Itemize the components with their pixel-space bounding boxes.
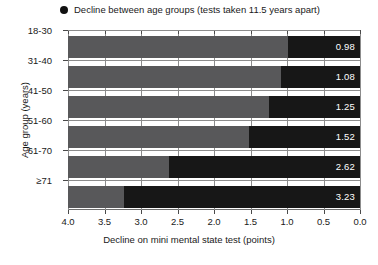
- y-axis-tick-labels: 18-3031-4041-5051-6061-70≥71: [0, 0, 64, 265]
- y-tick-mark: [63, 150, 68, 151]
- x-tick-label: 1.0: [280, 216, 293, 227]
- y-tick-mark: [63, 180, 68, 181]
- bar-value-label: 1.52: [336, 132, 360, 142]
- bar-row: 1.52: [68, 126, 360, 148]
- y-tick-mark: [63, 120, 68, 121]
- x-tick-mark-bottom: [214, 210, 215, 214]
- bar-row: 1.08: [68, 66, 360, 88]
- x-tick-label: 2.0: [207, 216, 220, 227]
- x-tick-mark-bottom: [141, 210, 142, 214]
- plot-area: 0.981.081.251.522.623.23: [68, 30, 360, 210]
- x-tick-mark-bottom: [360, 210, 361, 214]
- x-tick-mark-bottom: [178, 210, 179, 214]
- bar-value-label: 2.62: [336, 162, 360, 172]
- bar-value-label: 0.98: [336, 42, 360, 52]
- x-tick-label: 3.0: [134, 216, 147, 227]
- x-tick-mark-bottom: [287, 210, 288, 214]
- bar-row: 3.23: [68, 186, 360, 208]
- category-gridline: [68, 90, 360, 91]
- bar-value-label: 1.08: [336, 72, 360, 82]
- x-tick-label: 4.0: [61, 216, 74, 227]
- category-gridline: [68, 60, 360, 61]
- y-tick-label: 41-50: [28, 85, 52, 96]
- bar-row: 1.25: [68, 96, 360, 118]
- x-tick-label: 1.5: [244, 216, 257, 227]
- y-tick-mark: [63, 90, 68, 91]
- bar-segment-decline: 0.98: [288, 36, 360, 58]
- y-tick-label: 51-60: [28, 115, 52, 126]
- x-tick-label: 0.0: [353, 216, 366, 227]
- bar-segment-decline: 1.52: [249, 126, 360, 148]
- bar-segment-remainder: [68, 96, 269, 118]
- y-tick-label: 18-30: [28, 25, 52, 36]
- bar-segment-remainder: [68, 186, 124, 208]
- category-gridline: [68, 30, 360, 31]
- bar-segment-remainder: [68, 36, 288, 58]
- category-gridline: [68, 150, 360, 151]
- gridline-x: [360, 30, 361, 210]
- x-tick-mark-top: [360, 30, 361, 34]
- bar-segment-decline: 2.62: [169, 156, 360, 178]
- bar-segment-remainder: [68, 156, 169, 178]
- bar-row: 2.62: [68, 156, 360, 178]
- bar-segment-remainder: [68, 66, 281, 88]
- y-tick-label: ≥71: [36, 175, 52, 186]
- bar-value-label: 1.25: [336, 102, 360, 112]
- x-tick-mark-bottom: [105, 210, 106, 214]
- x-axis-title: Decline on mini mental state test (point…: [0, 234, 378, 245]
- bar-segment-decline: 3.23: [124, 186, 360, 208]
- chart-root: Decline between age groups (tests taken …: [0, 0, 378, 265]
- y-tick-label: 31-40: [28, 55, 52, 66]
- chart-legend: Decline between age groups (tests taken …: [60, 4, 320, 15]
- x-tick-label: 0.5: [317, 216, 330, 227]
- y-tick-mark: [63, 30, 68, 31]
- x-tick-label: 3.5: [98, 216, 111, 227]
- x-tick-mark-bottom: [68, 210, 69, 214]
- legend-label: Decline between age groups (tests taken …: [74, 4, 320, 15]
- x-tick-mark-bottom: [324, 210, 325, 214]
- x-tick-label: 2.5: [171, 216, 184, 227]
- bar-segment-decline: 1.08: [281, 66, 360, 88]
- y-tick-mark: [63, 60, 68, 61]
- bar-segment-remainder: [68, 126, 249, 148]
- category-gridline: [68, 120, 360, 121]
- bar-value-label: 3.23: [336, 192, 360, 202]
- y-tick-label: 61-70: [28, 145, 52, 156]
- category-gridline: [68, 180, 360, 181]
- x-tick-mark-bottom: [251, 210, 252, 214]
- bar-segment-decline: 1.25: [269, 96, 360, 118]
- bar-row: 0.98: [68, 36, 360, 58]
